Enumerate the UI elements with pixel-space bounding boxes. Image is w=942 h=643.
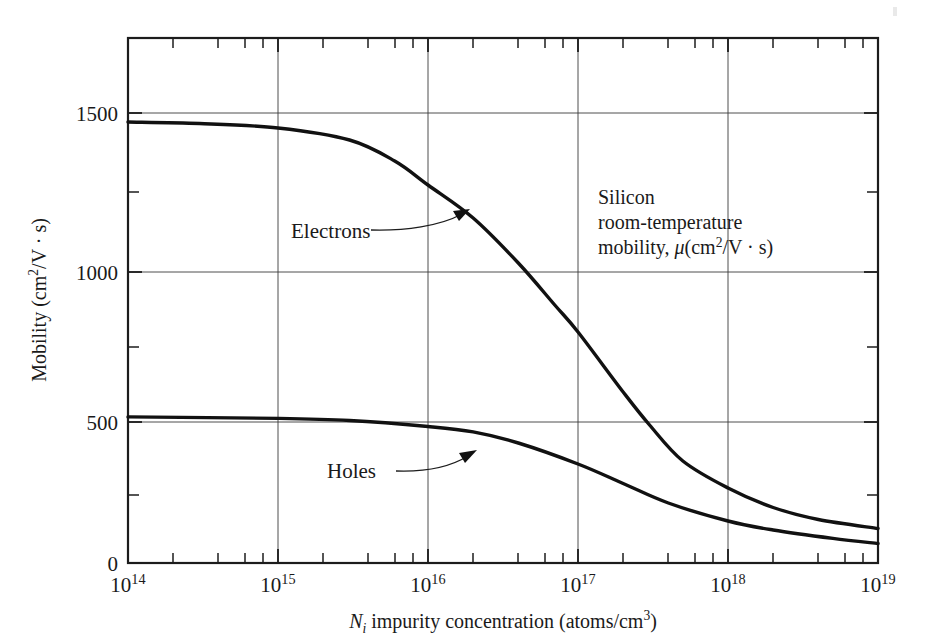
- annotation-unit-rest: /V · s): [722, 236, 773, 259]
- y-tick-label-500: 500: [87, 411, 119, 435]
- chart-background: [0, 0, 942, 643]
- x-axis-title-group: Ni impurity concentration (atoms/cm3): [348, 608, 657, 636]
- annotation-mu-symbol: μ: [673, 236, 684, 259]
- mobility-vs-impurity-chart: Electrons Holes Silicon room-temperature…: [0, 0, 942, 643]
- x-tick-base-4: 10: [710, 573, 731, 597]
- annotation-unit-open: (cm: [685, 236, 717, 259]
- y-axis-title: Mobility (cm2/V · s): [26, 218, 51, 382]
- y-axis-title-group: Mobility (cm2/V · s): [26, 218, 51, 382]
- annotation-line-1: Silicon: [598, 186, 655, 208]
- x-tick-base-3: 10: [560, 573, 581, 597]
- annotation-line-3: mobility, μ(cm2/V · s): [598, 235, 773, 259]
- annotation-mobility-word: mobility,: [598, 236, 674, 259]
- x-tick-exp-5: 19: [881, 571, 895, 587]
- y-axis-title-rest: /V · s): [28, 218, 51, 269]
- x-tick-exp-2: 16: [431, 571, 445, 587]
- x-tick-base-2: 10: [410, 573, 431, 597]
- x-tick-exp-3: 17: [581, 571, 595, 587]
- x-axis-title-close: ): [650, 610, 657, 633]
- y-tick-label-1000: 1000: [76, 261, 118, 285]
- holes-curve-label: Holes: [327, 459, 376, 483]
- x-tick-exp-1: 15: [281, 571, 295, 587]
- x-tick-base-5: 10: [860, 573, 881, 597]
- scan-speck: [893, 7, 897, 16]
- x-axis-title-text: impurity concentration (atoms/cm: [366, 610, 644, 633]
- x-tick-exp-0: 14: [131, 571, 145, 587]
- electrons-curve-label: Electrons: [291, 219, 370, 243]
- x-tick-base-0: 10: [110, 573, 131, 597]
- x-axis-title: Ni impurity concentration (atoms/cm3): [348, 608, 657, 636]
- x-tick-base-1: 10: [260, 573, 281, 597]
- x-tick-exp-4: 18: [731, 571, 745, 587]
- annotation-line-2: room-temperature: [598, 211, 742, 234]
- y-axis-title-text: Mobility (cm: [28, 275, 51, 382]
- y-tick-label-1500: 1500: [76, 102, 118, 126]
